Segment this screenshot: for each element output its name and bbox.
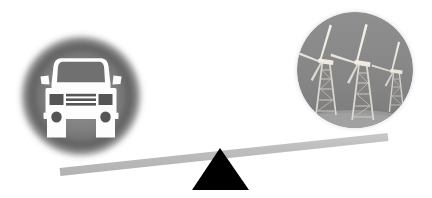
car-grille-bar xyxy=(66,94,96,97)
car-wheel-hub-right xyxy=(100,111,110,122)
car-headlight-right-icon xyxy=(99,94,113,105)
car-wheel-hub-left xyxy=(51,111,61,122)
car-grille-bar xyxy=(66,103,96,106)
seesaw-comparison-figure xyxy=(0,0,432,198)
car-medallion xyxy=(19,34,143,158)
car-mirror-right-icon xyxy=(113,76,122,85)
car-grille-bar xyxy=(66,98,96,101)
car-windshield xyxy=(57,62,105,82)
car-mirror-left-icon xyxy=(41,76,50,85)
figure-canvas xyxy=(0,0,432,198)
car-headlight-left-icon xyxy=(50,94,64,105)
